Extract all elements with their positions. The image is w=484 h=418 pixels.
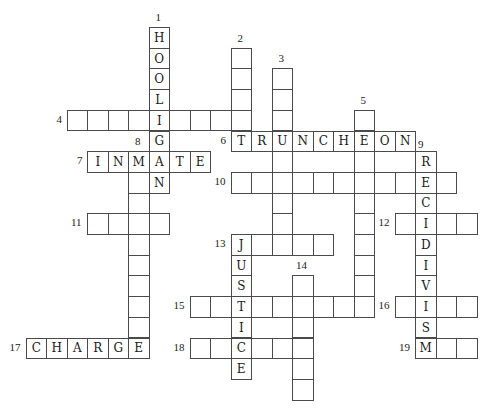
grid-cell[interactable] xyxy=(436,338,458,360)
grid-cell[interactable] xyxy=(354,213,376,235)
grid-cell[interactable] xyxy=(292,172,314,194)
grid-cell[interactable] xyxy=(128,296,150,318)
grid-cell[interactable]: C xyxy=(313,131,335,153)
grid-cell[interactable]: O xyxy=(374,131,396,153)
grid-cell[interactable]: R xyxy=(415,151,437,173)
grid-cell[interactable] xyxy=(128,172,150,194)
grid-cell[interactable]: I xyxy=(149,110,171,132)
grid-cell[interactable] xyxy=(456,296,478,318)
grid-cell[interactable] xyxy=(272,234,294,256)
grid-cell[interactable]: N xyxy=(395,131,417,153)
grid-cell[interactable] xyxy=(190,338,212,360)
grid-cell[interactable] xyxy=(395,296,417,318)
grid-cell[interactable]: E xyxy=(354,131,376,153)
grid-cell[interactable]: E xyxy=(415,172,437,194)
grid-cell[interactable]: C xyxy=(26,338,48,360)
grid-cell[interactable] xyxy=(354,193,376,215)
grid-cell[interactable]: E xyxy=(128,338,150,360)
grid-cell[interactable] xyxy=(190,296,212,318)
grid-cell[interactable] xyxy=(272,151,294,173)
grid-cell[interactable]: R xyxy=(251,131,273,153)
grid-cell[interactable] xyxy=(292,275,314,297)
grid-cell[interactable] xyxy=(292,379,314,401)
grid-cell[interactable] xyxy=(108,110,130,132)
grid-cell[interactable]: D xyxy=(415,234,437,256)
grid-cell[interactable] xyxy=(395,213,417,235)
grid-cell[interactable] xyxy=(272,172,294,194)
grid-cell[interactable] xyxy=(354,296,376,318)
grid-cell[interactable]: I xyxy=(87,151,109,173)
grid-cell[interactable] xyxy=(272,110,294,132)
grid-cell[interactable]: S xyxy=(231,275,253,297)
grid-cell[interactable]: L xyxy=(149,89,171,111)
grid-cell[interactable]: O xyxy=(149,48,171,70)
grid-cell[interactable] xyxy=(190,110,212,132)
grid-cell[interactable]: T xyxy=(169,151,191,173)
grid-cell[interactable] xyxy=(108,213,130,235)
grid-cell[interactable] xyxy=(272,213,294,235)
grid-cell[interactable]: M xyxy=(415,338,437,360)
grid-cell[interactable]: I xyxy=(415,213,437,235)
grid-cell[interactable] xyxy=(251,234,273,256)
grid-cell[interactable]: H xyxy=(46,338,68,360)
grid-cell[interactable]: R xyxy=(87,338,109,360)
grid-cell[interactable] xyxy=(210,110,232,132)
grid-cell[interactable]: G xyxy=(108,338,130,360)
grid-cell[interactable] xyxy=(436,213,458,235)
grid-cell[interactable] xyxy=(210,338,232,360)
grid-cell[interactable] xyxy=(231,68,253,90)
grid-cell[interactable] xyxy=(251,172,273,194)
grid-cell[interactable]: G xyxy=(149,131,171,153)
grid-cell[interactable]: J xyxy=(231,234,253,256)
grid-cell[interactable]: H xyxy=(333,131,355,153)
grid-cell[interactable]: E xyxy=(231,358,253,380)
grid-cell[interactable]: T xyxy=(231,131,253,153)
grid-cell[interactable] xyxy=(354,255,376,277)
grid-cell[interactable] xyxy=(313,234,335,256)
grid-cell[interactable]: I xyxy=(415,255,437,277)
grid-cell[interactable] xyxy=(169,110,191,132)
grid-cell[interactable] xyxy=(272,338,294,360)
grid-cell[interactable]: E xyxy=(190,151,212,173)
grid-cell[interactable] xyxy=(128,110,150,132)
grid-cell[interactable] xyxy=(231,110,253,132)
grid-cell[interactable] xyxy=(272,68,294,90)
grid-cell[interactable] xyxy=(272,193,294,215)
grid-cell[interactable] xyxy=(128,255,150,277)
grid-cell[interactable]: A xyxy=(67,338,89,360)
grid-cell[interactable]: I xyxy=(415,296,437,318)
grid-cell[interactable] xyxy=(292,358,314,380)
grid-cell[interactable] xyxy=(231,48,253,70)
grid-cell[interactable] xyxy=(292,234,314,256)
grid-cell[interactable] xyxy=(456,213,478,235)
grid-cell[interactable] xyxy=(333,172,355,194)
grid-cell[interactable] xyxy=(292,317,314,339)
grid-cell[interactable] xyxy=(354,110,376,132)
grid-cell[interactable] xyxy=(354,151,376,173)
grid-cell[interactable] xyxy=(456,338,478,360)
grid-cell[interactable] xyxy=(251,338,273,360)
grid-cell[interactable] xyxy=(272,89,294,111)
grid-cell[interactable]: C xyxy=(231,338,253,360)
grid-cell[interactable] xyxy=(67,110,89,132)
grid-cell[interactable]: A xyxy=(149,151,171,173)
grid-cell[interactable]: H xyxy=(149,27,171,49)
grid-cell[interactable] xyxy=(354,172,376,194)
grid-cell[interactable] xyxy=(436,172,458,194)
grid-cell[interactable] xyxy=(354,275,376,297)
grid-cell[interactable] xyxy=(313,172,335,194)
grid-cell[interactable] xyxy=(128,193,150,215)
grid-cell[interactable] xyxy=(210,296,232,318)
grid-cell[interactable]: M xyxy=(128,151,150,173)
grid-cell[interactable] xyxy=(395,172,417,194)
grid-cell[interactable]: N xyxy=(108,151,130,173)
grid-cell[interactable]: S xyxy=(415,317,437,339)
grid-cell[interactable] xyxy=(272,296,294,318)
grid-cell[interactable]: T xyxy=(231,296,253,318)
grid-cell[interactable] xyxy=(354,234,376,256)
grid-cell[interactable] xyxy=(292,296,314,318)
grid-cell[interactable]: U xyxy=(272,131,294,153)
grid-cell[interactable] xyxy=(128,317,150,339)
grid-cell[interactable] xyxy=(87,110,109,132)
grid-cell[interactable]: C xyxy=(415,193,437,215)
